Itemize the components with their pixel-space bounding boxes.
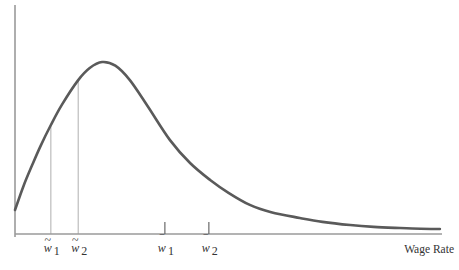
density-curve — [15, 62, 440, 229]
w-tilde-symbol: w — [44, 241, 52, 255]
w-bar-symbol: w — [158, 241, 166, 255]
w-tilde-symbol: w — [71, 241, 79, 255]
tick-labels: ~w1~w2‾w1‾w2 — [44, 233, 218, 258]
w-bar-symbol: w — [202, 241, 210, 255]
subscript-1: 1 — [54, 244, 60, 258]
tick-marks — [165, 222, 209, 234]
guide-lines — [51, 80, 78, 234]
subscript-1: 1 — [168, 244, 174, 258]
x-axis-label: Wage Rate — [404, 243, 454, 256]
wage-distribution-chart: ~w1~w2‾w1‾w2 Wage Rate — [0, 0, 459, 270]
tick-label-w-bar-1: ‾w1 — [158, 233, 174, 258]
subscript-2: 2 — [212, 244, 218, 258]
tick-label-w-tilde-1: ~w1 — [44, 233, 60, 258]
tick-label-w-tilde-2: ~w2 — [71, 233, 87, 258]
tick-label-w-bar-2: ‾w2 — [202, 233, 218, 258]
subscript-2: 2 — [81, 244, 87, 258]
